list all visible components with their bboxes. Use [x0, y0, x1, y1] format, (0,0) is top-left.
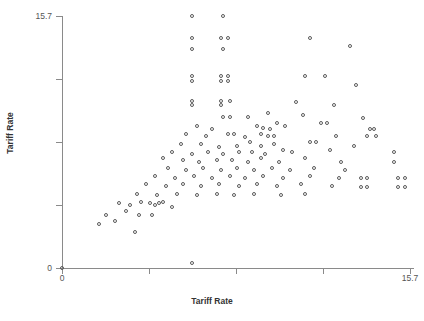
scatter-plot-figure: 015.7 015.7 Tariff Rate Tariff Rate [0, 0, 424, 321]
data-point [237, 184, 241, 188]
data-point [226, 132, 230, 136]
data-point [343, 168, 347, 172]
data-point [303, 74, 307, 78]
data-point [113, 219, 117, 223]
data-point [328, 148, 332, 152]
data-point [181, 158, 185, 162]
data-point [246, 160, 250, 164]
data-point [330, 184, 334, 188]
data-point [275, 184, 279, 188]
data-point [190, 79, 194, 83]
data-point [228, 99, 232, 103]
data-point [365, 134, 369, 138]
data-point [348, 44, 352, 48]
data-point [190, 74, 194, 78]
data-point [392, 150, 396, 154]
data-point [173, 176, 177, 180]
data-point [190, 261, 194, 265]
data-point [312, 166, 316, 170]
data-point [272, 142, 276, 146]
data-point [164, 184, 168, 188]
data-point [217, 182, 221, 186]
data-point [221, 152, 225, 156]
data-point [135, 192, 139, 196]
data-point [337, 176, 341, 180]
data-point [352, 144, 356, 148]
data-point [294, 100, 298, 104]
data-point [290, 150, 294, 154]
data-point [128, 203, 132, 207]
data-point [179, 142, 183, 146]
data-point [124, 209, 128, 213]
data-point [266, 134, 270, 138]
data-point [150, 213, 154, 217]
data-point [288, 168, 292, 172]
data-point [270, 166, 274, 170]
data-point [155, 193, 159, 197]
plot-area [0, 0, 424, 321]
data-point [232, 193, 236, 197]
data-point [137, 213, 141, 217]
data-point [248, 140, 252, 144]
data-point [250, 150, 254, 154]
data-point [215, 158, 219, 162]
data-point [197, 160, 201, 164]
data-point [157, 201, 161, 205]
data-point [184, 168, 188, 172]
data-point [199, 184, 203, 188]
data-point [303, 192, 307, 196]
data-point [219, 74, 223, 78]
data-point [144, 182, 148, 186]
data-point [215, 192, 219, 196]
data-point [374, 134, 378, 138]
data-point [201, 166, 205, 170]
data-point [190, 103, 194, 107]
data-point [184, 132, 188, 136]
data-point [195, 124, 199, 128]
data-point [190, 152, 194, 156]
data-point [228, 174, 232, 178]
data-point [334, 134, 338, 138]
data-point [308, 140, 312, 144]
data-point [190, 99, 194, 103]
data-point [365, 176, 369, 180]
data-point [226, 36, 230, 40]
data-point [219, 36, 223, 40]
data-point [354, 83, 358, 87]
data-point [255, 182, 259, 186]
data-point [153, 203, 157, 207]
data-point [221, 47, 225, 51]
data-point [153, 174, 157, 178]
data-point [263, 152, 267, 156]
data-point [403, 185, 407, 189]
data-point [170, 205, 174, 209]
data-point [133, 230, 137, 234]
data-point [261, 174, 265, 178]
data-point [299, 182, 303, 186]
data-point [219, 79, 223, 83]
data-point [206, 150, 210, 154]
data-point [175, 192, 179, 196]
data-point [396, 176, 400, 180]
data-point [117, 201, 121, 205]
data-point [392, 160, 396, 164]
data-point [275, 121, 279, 125]
data-point [261, 126, 265, 130]
data-point [226, 74, 230, 78]
data-point [283, 124, 287, 128]
data-point [323, 74, 327, 78]
data-point [243, 135, 247, 139]
data-point [281, 176, 285, 180]
data-point [217, 145, 221, 149]
data-point [104, 213, 108, 217]
data-point [195, 193, 199, 197]
data-point [221, 14, 225, 18]
data-point [252, 192, 256, 196]
data-point [396, 185, 400, 189]
data-point [237, 150, 241, 154]
data-point [361, 116, 365, 120]
data-point [277, 160, 281, 164]
data-point [368, 127, 372, 131]
data-point [281, 148, 285, 152]
data-point [403, 176, 407, 180]
